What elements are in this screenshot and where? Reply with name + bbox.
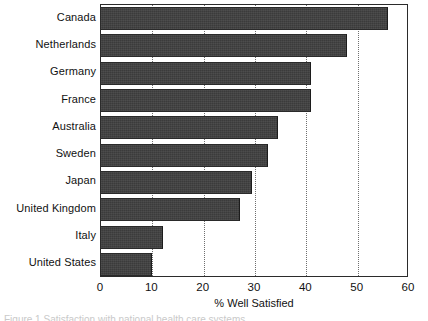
bar-row: [101, 116, 409, 139]
plot-area: [100, 4, 408, 277]
bar-italy: [101, 226, 163, 249]
bar-row: [101, 7, 409, 30]
bar-row: [101, 198, 409, 221]
category-label-france: France: [0, 94, 96, 105]
bar-germany: [101, 62, 311, 85]
category-label-united-states: United States: [0, 257, 96, 268]
bar-row: [101, 226, 409, 249]
bar-australia: [101, 116, 278, 139]
bar-united-states: [101, 253, 152, 276]
category-label-united-kingdom: United Kingdom: [0, 203, 96, 214]
x-tick-label-10: 10: [145, 280, 158, 294]
x-tick-label-20: 20: [196, 280, 209, 294]
bar-row: [101, 253, 409, 276]
bar-row: [101, 89, 409, 112]
figure-caption: Figure 1 Satisfaction with national heal…: [4, 314, 424, 321]
bar-row: [101, 144, 409, 167]
bar-united-kingdom: [101, 198, 240, 221]
bar-france: [101, 89, 311, 112]
bar-row: [101, 171, 409, 194]
x-tick-label-40: 40: [299, 280, 312, 294]
x-tick-label-50: 50: [350, 280, 363, 294]
bar-netherlands: [101, 34, 347, 57]
x-axis-title: % Well Satisfied: [100, 297, 408, 310]
category-label-canada: Canada: [0, 12, 96, 23]
category-axis: CanadaNetherlandsGermanyFranceAustraliaS…: [0, 4, 96, 277]
category-label-australia: Australia: [0, 121, 96, 132]
category-label-germany: Germany: [0, 66, 96, 77]
x-tick-label-30: 30: [248, 280, 261, 294]
bar-row: [101, 34, 409, 57]
bar-chart-figure: CanadaNetherlandsGermanyFranceAustraliaS…: [0, 0, 428, 321]
category-label-italy: Italy: [0, 230, 96, 241]
category-label-japan: Japan: [0, 175, 96, 186]
x-tick-label-0: 0: [97, 280, 103, 294]
category-label-sweden: Sweden: [0, 148, 96, 159]
bar-canada: [101, 7, 388, 30]
x-axis-tick-labels: 0102030405060: [100, 280, 408, 296]
category-label-netherlands: Netherlands: [0, 39, 96, 50]
bar-row: [101, 62, 409, 85]
bar-japan: [101, 171, 252, 194]
x-tick-label-60: 60: [402, 280, 415, 294]
bar-sweden: [101, 144, 268, 167]
